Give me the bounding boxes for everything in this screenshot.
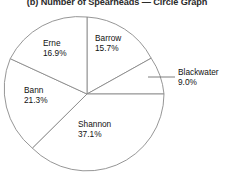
pie-label-erne-percent: 16.9%: [43, 48, 67, 58]
pie-label-bann: Bann 21.3%: [24, 85, 48, 106]
pie-label-blackwater-percent: 9.0%: [178, 77, 219, 87]
pie-label-barrow-percent: 15.7%: [95, 43, 121, 53]
pie-label-blackwater-name: Blackwater: [178, 67, 219, 77]
pie-label-erne: Erne 16.9%: [43, 38, 67, 59]
pie-label-shannon-percent: 37.1%: [78, 129, 111, 139]
pie-label-barrow: Barrow 15.7%: [95, 33, 121, 54]
pie-label-blackwater: Blackwater 9.0%: [178, 67, 219, 88]
pie-label-barrow-name: Barrow: [95, 33, 121, 43]
circle-graph-figure: (b) Number of Spearheads — Circle Graph …: [0, 0, 234, 183]
pie-label-shannon-name: Shannon: [78, 119, 111, 129]
pie-label-bann-percent: 21.3%: [24, 95, 48, 105]
pie-label-shannon: Shannon 37.1%: [78, 119, 111, 140]
pie-label-bann-name: Bann: [24, 85, 43, 95]
pie-label-erne-name: Erne: [43, 38, 61, 48]
